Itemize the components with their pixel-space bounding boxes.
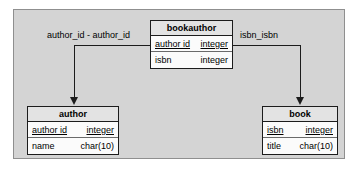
arrowhead-author [70, 97, 78, 105]
connector-bookauthor-author-vertical [74, 45, 75, 98]
attribute-type: integer [200, 39, 232, 49]
er-diagram-canvas: author_id - author_id isbn_isbn bookauth… [0, 0, 357, 175]
attribute-type: integer [200, 55, 232, 65]
attribute-name: isbn [151, 55, 172, 65]
relationship-label-isbn: isbn_isbn [240, 30, 278, 40]
connector-bookauthor-book-vertical [300, 45, 301, 98]
entity-book-title: book [263, 107, 337, 122]
attribute-name: author id [151, 39, 190, 49]
relationship-label-author-id: author_id - author_id [47, 30, 130, 40]
attribute-type: integer [86, 125, 118, 135]
connector-bookauthor-author-horizontal [74, 45, 151, 46]
attribute-name: name [28, 141, 55, 151]
entity-author-attribute-row: name char(10) [28, 138, 118, 154]
attribute-name: author id [28, 125, 67, 135]
entity-author-title: author [28, 107, 118, 122]
entity-bookauthor-title: bookauthor [151, 21, 232, 36]
entity-book[interactable]: book isbn integer title char(10) [262, 106, 338, 155]
entity-bookauthor-attribute-row: author id integer [151, 36, 232, 52]
arrowhead-book [296, 97, 304, 105]
entity-author[interactable]: author author id integer name char(10) [27, 106, 119, 155]
attribute-name: title [263, 141, 281, 151]
entity-book-attribute-row: title char(10) [263, 138, 337, 154]
attribute-type: char(10) [80, 141, 118, 151]
attribute-type: integer [305, 125, 337, 135]
attribute-name: isbn [263, 125, 284, 135]
attribute-type: char(10) [299, 141, 337, 151]
connector-bookauthor-book-horizontal [232, 45, 301, 46]
entity-bookauthor[interactable]: bookauthor author id integer isbn intege… [150, 20, 233, 69]
entity-book-attribute-row: isbn integer [263, 122, 337, 138]
entity-bookauthor-attribute-row: isbn integer [151, 52, 232, 68]
entity-author-attribute-row: author id integer [28, 122, 118, 138]
